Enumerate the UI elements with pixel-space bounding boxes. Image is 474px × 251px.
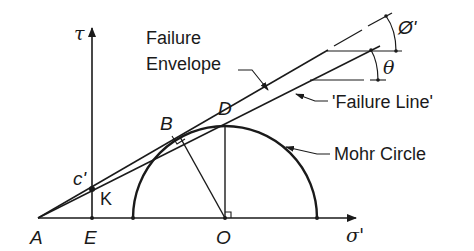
point-E [90,216,94,220]
sigma-axis-label: σ' [346,224,364,246]
failure-envelope-extension [334,30,362,46]
point-B-label: B [160,113,173,134]
failure-envelope-label-1: Failure [146,28,201,48]
failure-envelope-line [38,50,328,218]
failure-line-leader [296,94,328,101]
point-circle-left [131,216,135,220]
mohr-coulomb-diagram: τ σ' Failure Envelope 'Failure Line' Moh… [0,0,474,251]
radius-OB [180,137,225,218]
phi-angle-arc [386,16,396,51]
point-O [223,216,227,220]
mohr-circle-leader [286,147,330,154]
theta-angle-arc [371,50,378,80]
point-K-label: K [100,189,112,209]
point-c-label: c' [73,168,88,189]
point-D-label: D [218,98,232,119]
point-K [89,186,95,192]
failure-envelope-label-2: Envelope [146,54,221,74]
failure-line-label: 'Failure Line' [332,92,433,112]
phi-angle-label: Ø' [397,17,418,38]
point-E-label: E [84,227,97,248]
theta-angle-label: θ [383,56,395,78]
point-A-label: A [29,227,43,248]
mohr-circle-label: Mohr Circle [334,144,426,164]
point-circle-right [315,216,319,220]
point-O-label: O [216,227,231,248]
tau-axis-label: τ [74,22,85,44]
